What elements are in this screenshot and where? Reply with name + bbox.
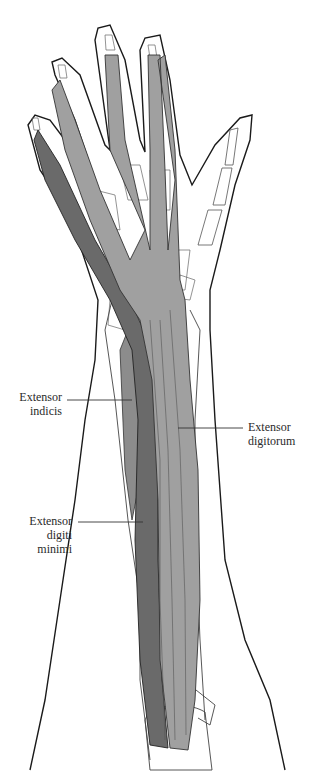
label-line: indicis bbox=[10, 404, 62, 418]
anatomy-figure: Extensor indicis Extensor digitorum Exte… bbox=[0, 0, 313, 773]
forearm-hand-illustration bbox=[0, 0, 313, 773]
label-line: Extensor bbox=[20, 514, 72, 528]
label-line: Extensor bbox=[10, 390, 62, 404]
label-line: digitorum bbox=[248, 434, 295, 448]
label-extensor-digitorum: Extensor digitorum bbox=[248, 420, 295, 448]
label-line: digiti bbox=[20, 528, 72, 542]
label-extensor-indicis: Extensor indicis bbox=[10, 390, 62, 418]
label-extensor-digiti-minimi: Extensor digiti minimi bbox=[20, 514, 72, 556]
label-line: minimi bbox=[20, 542, 72, 556]
label-line: Extensor bbox=[248, 420, 295, 434]
